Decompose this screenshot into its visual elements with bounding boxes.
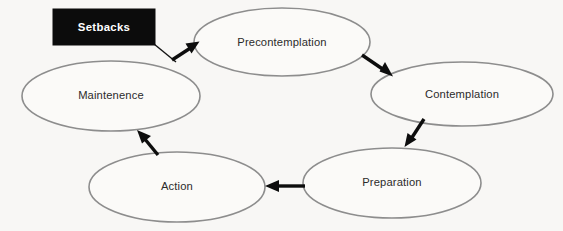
arrow-preparation-to-action <box>265 180 305 192</box>
stages-of-change-diagram: Precontemplation Contemplation Preparati… <box>0 0 563 231</box>
node-preparation[interactable]: Preparation <box>303 148 481 218</box>
arrow-action-to-maintenence <box>137 130 158 155</box>
node-precontemplation[interactable]: Precontemplation <box>194 8 370 76</box>
precontemplation-label: Precontemplation <box>237 36 326 48</box>
node-action[interactable]: Action <box>89 152 265 222</box>
precontemplation-arrow-head <box>380 62 394 77</box>
setbacks-callout[interactable]: Setbacks <box>53 9 155 45</box>
node-maintenence[interactable]: Maintenence <box>22 61 200 131</box>
diagram-canvas: Precontemplation Contemplation Preparati… <box>0 0 563 231</box>
arrow-precontemplation-to-contemplation <box>362 55 393 77</box>
contemplation-label: Contemplation <box>425 88 499 100</box>
arrow-setbacks-to-precontemplation <box>154 42 200 63</box>
arrow-contemplation-to-preparation <box>405 119 425 147</box>
node-contemplation[interactable]: Contemplation <box>371 62 553 126</box>
maintenence-label: Maintenence <box>78 89 144 101</box>
preparation-label: Preparation <box>362 176 422 188</box>
action-arrow-shaft <box>144 138 158 155</box>
setbacks-label: Setbacks <box>78 21 130 33</box>
action-label: Action <box>161 180 193 192</box>
precontemplation-arrow-shaft <box>362 55 384 70</box>
preparation-arrow-head <box>265 180 279 192</box>
